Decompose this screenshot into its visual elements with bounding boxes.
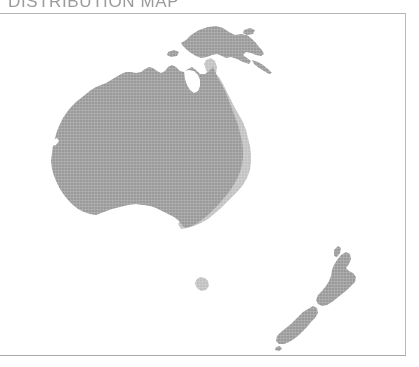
page-title: DISTRIBUTION MAP [8,0,308,13]
panel-border-right [405,13,406,356]
panel-border-bottom [0,355,406,356]
oceania-map-graphic [0,14,405,355]
map-figure [0,14,405,355]
distribution-map-panel: DISTRIBUTION MAP [0,0,419,367]
